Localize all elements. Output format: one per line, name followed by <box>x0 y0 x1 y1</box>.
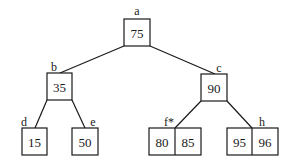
node-key: 15 <box>28 135 41 150</box>
node-label: a <box>134 4 140 18</box>
node-key: 95 <box>233 135 246 150</box>
edge-c-h <box>227 101 252 128</box>
node-a: a 75 <box>124 4 150 46</box>
edge-b-e <box>72 100 85 128</box>
node-d: d 15 <box>21 115 47 155</box>
node-label: b <box>51 60 57 74</box>
node-key: 35 <box>53 80 66 95</box>
node-key: 85 <box>182 135 195 150</box>
node-label: f* <box>164 115 174 129</box>
node-label: h <box>259 115 265 129</box>
node-key: 80 <box>156 135 169 150</box>
tree-diagram: a 75 b 35 c 90 d 15 e 50 f* 80 85 h 95 <box>0 0 295 167</box>
node-key: 75 <box>131 26 144 41</box>
edge-a-b <box>60 46 124 73</box>
edge-a-c <box>150 46 215 74</box>
node-e: e 50 <box>72 115 98 155</box>
node-label: c <box>216 61 221 75</box>
node-key: 50 <box>79 135 92 150</box>
node-h: h 95 96 <box>227 115 278 155</box>
node-label: e <box>90 115 95 129</box>
node-f: f* 80 85 <box>149 115 201 155</box>
edge-b-d <box>35 100 47 128</box>
edge-c-f <box>175 101 201 128</box>
node-label: d <box>21 115 27 129</box>
node-b: b 35 <box>47 60 72 100</box>
node-c: c 90 <box>201 61 227 101</box>
node-key: 96 <box>259 135 273 150</box>
node-key: 90 <box>208 81 221 96</box>
